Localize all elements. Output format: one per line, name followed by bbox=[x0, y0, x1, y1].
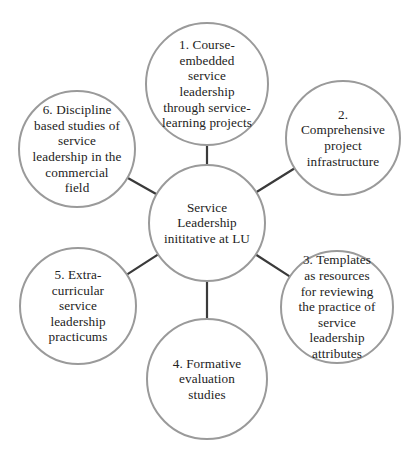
label-text-block: 4. Formativeevaluationstudies bbox=[173, 356, 242, 403]
label-line: as resources bbox=[299, 268, 376, 284]
label-line: evaluation bbox=[173, 371, 242, 387]
center-label: ServiceLeadershipinititative at LU bbox=[159, 165, 255, 281]
label-line: 2. bbox=[301, 107, 385, 123]
label-line: project bbox=[301, 138, 385, 154]
label-line: leadership bbox=[299, 330, 376, 346]
label-text-block: 1. Course-embeddedserviceleadershipthrou… bbox=[162, 37, 252, 131]
label-line: 4. Formative bbox=[173, 356, 242, 372]
label-line: field bbox=[33, 180, 122, 196]
connector-node-5 bbox=[127, 254, 158, 274]
label-text-block: 2.Comprehensiveprojectinfrastructure bbox=[301, 107, 385, 169]
label-line: service bbox=[49, 298, 108, 314]
label-line: the practice of bbox=[299, 299, 376, 315]
label-line: service bbox=[162, 68, 252, 84]
node-3-label: 3. Templatesas resourcesfor reviewingthe… bbox=[283, 251, 391, 363]
label-line: practicums bbox=[49, 329, 108, 345]
node-2-label: 2.Comprehensiveprojectinfrastructure bbox=[292, 81, 394, 195]
label-line: through service- bbox=[162, 100, 252, 116]
label-text-block: ServiceLeadershipinititative at LU bbox=[164, 200, 250, 247]
label-line: 1. Course- bbox=[162, 37, 252, 53]
label-text-block: 6. Disciplinebased studies ofservicelead… bbox=[33, 102, 122, 196]
label-line: studies bbox=[173, 387, 242, 403]
label-text-block: 5. Extra-curricularserviceleadershipprac… bbox=[49, 267, 108, 345]
node-5-label: 5. Extra-curricularserviceleadershipprac… bbox=[28, 248, 128, 364]
label-line: Leadership bbox=[164, 215, 250, 231]
label-line: 5. Extra- bbox=[49, 267, 108, 283]
label-line: leadership bbox=[49, 314, 108, 330]
label-line: curricular bbox=[49, 283, 108, 299]
connector-node-6 bbox=[127, 178, 156, 195]
label-line: based studies of bbox=[33, 118, 122, 134]
label-line: Comprehensive bbox=[301, 122, 385, 138]
label-line: leadership bbox=[162, 84, 252, 100]
label-line: commercial bbox=[33, 165, 122, 181]
label-line: service bbox=[299, 315, 376, 331]
label-line: service bbox=[33, 133, 122, 149]
node-4-label: 4. Formativeevaluationstudies bbox=[155, 319, 259, 439]
label-line: 3. Templates bbox=[299, 252, 376, 268]
label-line: infrastructure bbox=[301, 154, 385, 170]
label-line: embedded bbox=[162, 53, 252, 69]
label-line: inititative at LU bbox=[164, 231, 250, 247]
label-line: learning projects bbox=[162, 115, 252, 131]
label-line: 6. Discipline bbox=[33, 102, 122, 118]
label-text-block: 3. Templatesas resourcesfor reviewingthe… bbox=[299, 252, 376, 361]
label-line: attributes bbox=[299, 346, 376, 362]
node-6-label: 6. Disciplinebased studies ofservicelead… bbox=[23, 91, 131, 207]
label-line: for reviewing bbox=[299, 284, 376, 300]
label-line: Service bbox=[164, 200, 250, 216]
node-1-label: 1. Course-embeddedserviceleadershipthrou… bbox=[152, 23, 262, 145]
label-line: leadership in the bbox=[33, 149, 122, 165]
connector-node-2 bbox=[256, 168, 295, 192]
